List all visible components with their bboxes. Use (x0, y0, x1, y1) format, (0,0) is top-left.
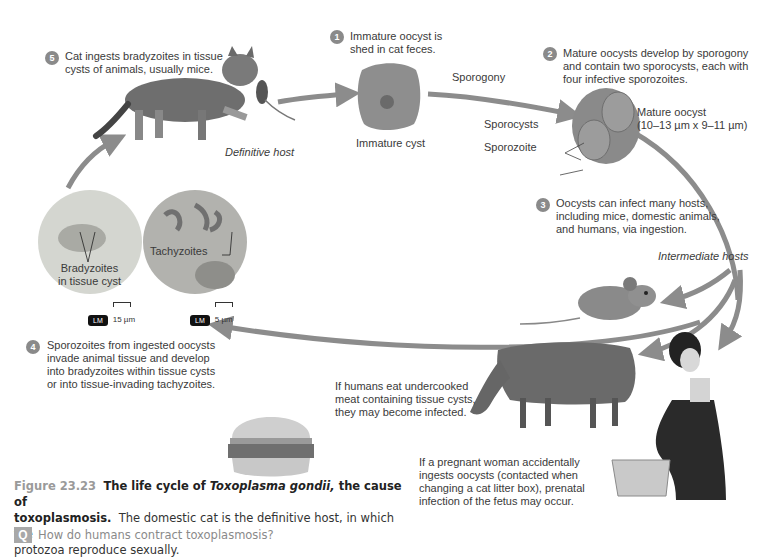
pregnant-infection-note: If a pregnant woman accidentallyingests … (419, 456, 585, 508)
figure-number: Figure 23.23 (14, 479, 96, 493)
scale-bar (113, 302, 131, 307)
step-3-text: Oocysts can infect many hosts,including … (556, 197, 720, 236)
scale-1: LM 15 µm (88, 302, 135, 326)
caption-body-line2: protozoa reproduce sexually. (14, 542, 404, 558)
caption-title: The life cycle of (103, 479, 209, 493)
step-badge-1: 1 (330, 30, 344, 44)
cow-illustration (470, 342, 635, 428)
step-badge-4: 4 (26, 340, 40, 354)
step-badge-2: 2 (543, 47, 557, 61)
figure-caption: Figure 23.23 The life cycle of Toxoplasm… (14, 478, 404, 558)
intermediate-hosts-label: Intermediate hosts (658, 250, 749, 263)
bradyzoites-label: Bradyzoitesin tissue cyst (58, 262, 121, 288)
sporozoite-label: Sporozoite (484, 141, 537, 154)
step-badge-5: 5 (45, 51, 59, 65)
scale-2: LM 5 µm (190, 302, 233, 326)
scale-text: 5 µm (215, 315, 233, 324)
meat-infection-note: If humans eat undercookedmeat containing… (335, 380, 476, 419)
hamburger-illustration (228, 417, 314, 477)
definitive-host-label: Definitive host (225, 146, 294, 159)
caption-species: Toxoplasma gondii, (210, 479, 335, 493)
lm-badge: LM (190, 315, 210, 326)
caption-title-line2: toxoplasmosis. (14, 511, 111, 525)
scale-bar (215, 302, 233, 307)
lm-badge: LM (88, 315, 108, 326)
question-icon: Q (14, 527, 32, 543)
step-badge-3: 3 (536, 198, 550, 212)
tachyzoites-label: Tachyzoites (150, 245, 207, 258)
step-5-text: Cat ingests bradyzoites in tissuecysts o… (65, 50, 223, 76)
step-4-text: Sporozoites from ingested oocystsinvade … (47, 339, 215, 391)
step-2-text: Mature oocysts develop by sporogonyand c… (563, 47, 748, 86)
question-row: Q How do humans contract toxoplasmosis? (14, 527, 274, 543)
question-text: How do humans contract toxoplasmosis? (38, 527, 274, 543)
mouse-illustration (520, 277, 656, 324)
immature-cyst-illustration (358, 63, 421, 130)
mature-oocyst-label: Mature oocyst(10–13 µm x 9–11 µm) (637, 106, 747, 132)
sporogony-label: Sporogony (452, 71, 505, 84)
step-1-text: Immature oocyst isshed in cat feces. (350, 30, 442, 56)
scale-text: 15 µm (113, 315, 135, 324)
mature-oocyst-illustration (560, 88, 640, 175)
sporocysts-label: Sporocysts (484, 118, 538, 131)
immature-cyst-label: Immature cyst (356, 137, 425, 150)
